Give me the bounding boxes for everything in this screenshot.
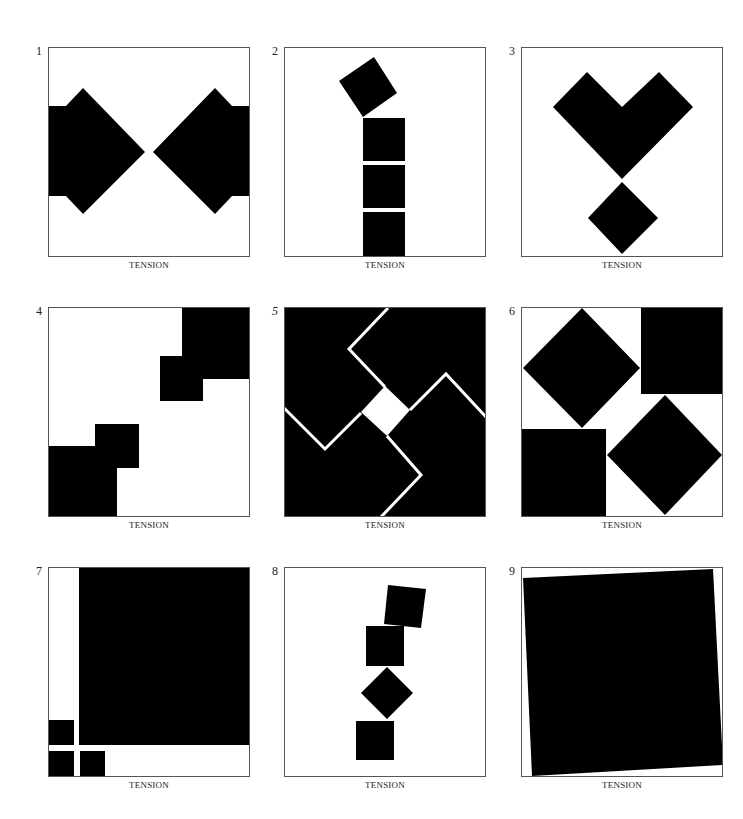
rotated-large-square (523, 569, 722, 776)
panel-caption: TENSION (521, 260, 723, 270)
panel-frame (284, 47, 486, 257)
panel-frame (521, 567, 723, 777)
large-black-square (79, 568, 249, 745)
top-right-step (160, 356, 203, 401)
small-square-lower-right (80, 751, 105, 776)
panel-2: 2 TENSION (284, 47, 485, 287)
panel-frame (284, 307, 486, 517)
panel-9: 9 TENSION (521, 567, 722, 807)
panel-frame (284, 567, 486, 777)
tilted-top-square (384, 585, 426, 628)
panel-number: 2 (272, 44, 278, 58)
panel-frame (521, 307, 723, 517)
panel-frame (48, 47, 250, 257)
panel-number: 9 (509, 564, 515, 578)
panel-1: 1 TENSION (48, 47, 249, 287)
bottom-square (356, 721, 394, 760)
tension-figure-7 (49, 568, 249, 776)
panel-caption: TENSION (48, 260, 250, 270)
right-arrow-shape (153, 88, 249, 214)
panel-number: 1 (36, 44, 42, 58)
panel-frame (521, 47, 723, 257)
upper-square (366, 626, 404, 666)
tension-figure-8 (285, 568, 485, 776)
panel-7: 7 TENSION (48, 567, 249, 807)
panel-5: 5 TENSION (284, 307, 485, 547)
tension-figure-3 (522, 48, 722, 256)
square-bottom-left (522, 429, 606, 516)
left-arrow-shape (49, 88, 145, 214)
panel-number: 8 (272, 564, 278, 578)
stacked-square-middle (363, 165, 405, 208)
panel-number: 4 (36, 304, 42, 318)
diamond-bottom-right (607, 395, 722, 515)
square-top-right (641, 308, 722, 394)
panel-6: 6 TENSION (521, 307, 722, 547)
panel-caption: TENSION (48, 520, 250, 530)
v-shape (553, 72, 693, 179)
panel-caption: TENSION (284, 520, 486, 530)
middle-diamond (361, 667, 413, 719)
bottom-left-step (95, 424, 139, 468)
stacked-square-top (363, 118, 405, 161)
tension-figure-4 (49, 308, 249, 516)
panel-frame (48, 307, 250, 517)
panel-caption: TENSION (48, 780, 250, 790)
panel-caption: TENSION (521, 780, 723, 790)
small-square-upper-left (49, 720, 74, 745)
diamond-top-left (523, 308, 640, 428)
tension-figure-5 (285, 308, 485, 516)
small-square-lower-left (49, 751, 74, 776)
stacked-square-bottom (363, 212, 405, 256)
tension-figure-1 (49, 48, 249, 256)
panel-number: 6 (509, 304, 515, 318)
diamond (588, 182, 658, 254)
panel-caption: TENSION (521, 520, 723, 530)
tilted-square (339, 57, 397, 117)
panel-number: 3 (509, 44, 515, 58)
tension-figure-2 (285, 48, 485, 256)
panel-caption: TENSION (284, 780, 486, 790)
panel-number: 5 (272, 304, 278, 318)
tension-figure-6 (522, 308, 722, 516)
panel-8: 8 TENSION (284, 567, 485, 807)
panel-4: 4 TENSION (48, 307, 249, 547)
panel-number: 7 (36, 564, 42, 578)
panel-caption: TENSION (284, 260, 486, 270)
tension-figure-9 (522, 568, 722, 776)
panel-frame (48, 567, 250, 777)
panel-3: 3 TENSION (521, 47, 722, 287)
